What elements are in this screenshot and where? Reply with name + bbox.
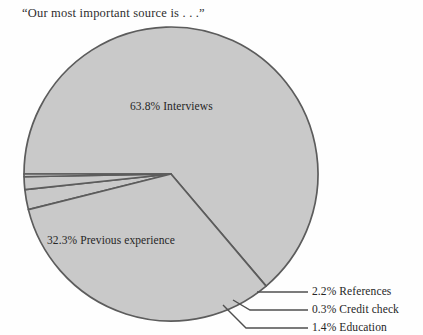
slice-label-previous-experience: 32.3% Previous experience <box>47 234 175 246</box>
leader-line-education <box>223 305 308 328</box>
pie-chart-figure: “Our most important source is . . .” 63.… <box>0 0 423 335</box>
slice-label-interviews: 63.8% Interviews <box>130 100 213 112</box>
callout-label-references: 2.2% References <box>312 285 391 297</box>
callout-label-education: 1.4% Education <box>312 321 387 333</box>
callout-label-credit-check: 0.3% Credit check <box>312 303 399 315</box>
